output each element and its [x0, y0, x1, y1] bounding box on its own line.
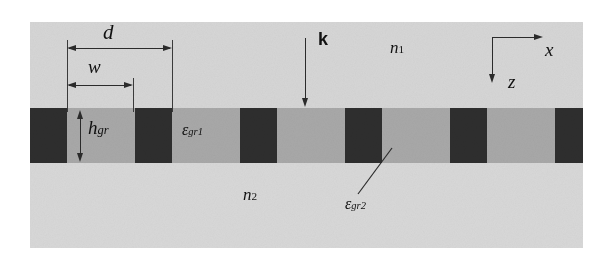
axis-z-label: z	[508, 72, 515, 91]
grating-ridge	[135, 108, 172, 163]
grating-height-subscript: gr	[98, 123, 109, 137]
eps2-subscript: gr2	[351, 200, 366, 211]
n2-symbol: n	[243, 185, 252, 204]
grating-schematic-figure: d w hgr εgr1 εgr2 n1 n2 k x z	[0, 0, 606, 271]
grating-ridge	[555, 108, 583, 163]
wavevector-label: k	[318, 30, 328, 48]
axis-z-arrowhead	[489, 74, 495, 83]
n1-symbol: n	[390, 38, 399, 57]
dimension-tick-right-d	[172, 40, 173, 112]
arrowhead-down-hgr	[77, 153, 83, 162]
leader-line-eps2	[330, 140, 410, 200]
ridge-width-label: w	[88, 57, 101, 76]
wavevector-arrowhead	[302, 98, 308, 107]
axis-z-shaft	[492, 37, 493, 76]
dimension-line-w	[69, 85, 131, 86]
period-label: d	[103, 22, 114, 43]
axis-x-arrowhead	[534, 34, 543, 40]
arrowhead-up-hgr	[77, 110, 83, 119]
substrate-region-n2	[30, 163, 583, 248]
arrowhead-right-d	[163, 45, 172, 51]
arrowhead-left-w	[67, 82, 76, 88]
grating-layer	[30, 108, 583, 163]
dimension-line-d	[69, 48, 170, 49]
arrowhead-left-d	[67, 45, 76, 51]
permittivity-ridge-label: εgr2	[345, 196, 366, 212]
permittivity-groove-label: εgr1	[182, 122, 203, 138]
refractive-index-superstrate-label: n1	[390, 39, 404, 56]
n2-subscript: 2	[252, 190, 258, 202]
dimension-tick-right-w	[133, 78, 134, 112]
dimension-line-hgr	[80, 114, 81, 158]
eps1-subscript: gr1	[188, 126, 203, 137]
grating-ridge	[30, 108, 67, 163]
n1-subscript: 1	[399, 43, 405, 55]
axis-x-label: x	[545, 40, 553, 59]
refractive-index-substrate-label: n2	[243, 186, 257, 203]
axis-x-shaft	[492, 37, 536, 38]
grating-height-label: hgr	[88, 118, 109, 137]
arrowhead-right-w	[124, 82, 133, 88]
wavevector-arrow-shaft	[305, 38, 306, 100]
grating-height-symbol: h	[88, 117, 98, 138]
dimension-tick-left-d	[67, 40, 68, 112]
grating-ridge	[240, 108, 277, 163]
grating-ridge	[450, 108, 487, 163]
